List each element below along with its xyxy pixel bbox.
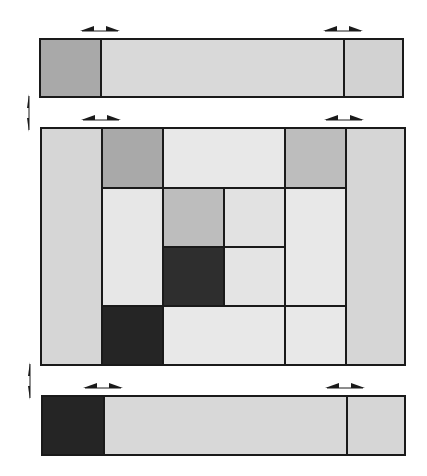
cell-r1-c3-c4 <box>163 129 285 188</box>
cell-r1-c5 <box>285 129 346 188</box>
top-bar-left-cell <box>41 40 100 96</box>
cell-r3-c3 <box>163 247 224 306</box>
main-grid <box>40 127 406 366</box>
cell-r4-c2 <box>102 306 163 364</box>
right-column <box>346 129 404 364</box>
cell-r2-c4 <box>224 188 285 247</box>
top-gap-vertical-double-arrow-icon <box>26 94 34 132</box>
bottom-bar-right-cell <box>348 397 404 454</box>
grid-line <box>345 129 347 364</box>
cell-r4-c3-c4 <box>163 306 285 364</box>
grid-right-double-arrow-icon <box>324 114 364 122</box>
grid-line <box>163 246 285 248</box>
top-bar-divider <box>100 40 102 96</box>
bottom-bar <box>41 395 406 456</box>
bottom-bar-left-double-arrow-icon <box>83 382 123 390</box>
grid-line <box>102 305 346 307</box>
bottom-bar-right-double-arrow-icon <box>325 382 365 390</box>
top-bar-middle-cell <box>102 40 343 96</box>
cell-r3-c4 <box>224 247 285 306</box>
cell-r4-c5 <box>285 306 346 364</box>
bottom-bar-middle-cell <box>105 397 346 454</box>
grid-line <box>102 187 346 189</box>
grid-left-double-arrow-icon <box>81 114 121 122</box>
cell-r2-r3-c2 <box>102 188 163 306</box>
cell-r2-c3 <box>163 188 224 247</box>
top-bar-divider <box>343 40 345 96</box>
top-bar-right-cell <box>345 40 402 96</box>
top-bar-right-double-arrow-icon <box>323 25 363 33</box>
top-bar-left-double-arrow-icon <box>80 25 120 33</box>
left-column <box>42 129 102 364</box>
top-bar <box>39 38 404 98</box>
cell-r1-c2 <box>102 129 163 188</box>
cell-r2-r3-c5 <box>285 188 346 306</box>
bottom-bar-left-cell <box>43 397 103 454</box>
bottom-bar-divider <box>346 397 348 454</box>
grid-line <box>101 129 103 364</box>
bottom-bar-divider <box>103 397 105 454</box>
bottom-gap-vertical-double-arrow-icon <box>27 362 35 400</box>
